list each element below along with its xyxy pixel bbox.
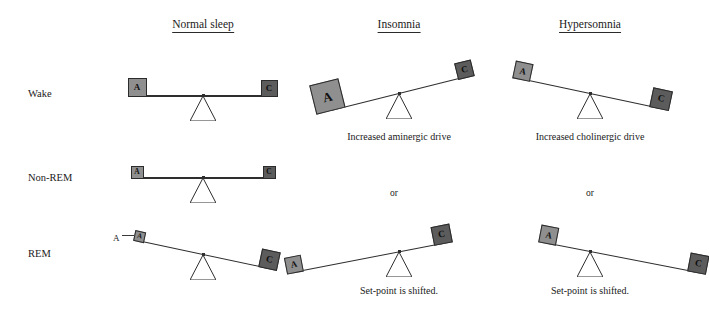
pivot-point — [589, 250, 592, 253]
hypersomnia-or: or — [586, 188, 594, 199]
scale-hypersomnia-rem: AC — [0, 0, 709, 311]
insomnia-or: or — [390, 188, 398, 199]
diagram-canvas: Normal sleepInsomniaHypersomnia WakeNon-… — [0, 0, 709, 311]
weight-aminergic: A — [538, 225, 559, 246]
insomnia-shift-caption: Set-point is shifted. — [360, 285, 438, 297]
scale-beam — [547, 243, 696, 273]
hypersomnia-wake-caption: Increased cholinergic drive — [536, 131, 645, 143]
rem-normal-a-label: A — [113, 233, 120, 243]
hypersomnia-shift-caption: Set-point is shifted. — [551, 285, 629, 297]
weight-cholinergic: C — [687, 253, 709, 275]
insomnia-wake-caption: Increased aminergic drive — [347, 131, 451, 143]
fulcrum — [577, 252, 603, 277]
